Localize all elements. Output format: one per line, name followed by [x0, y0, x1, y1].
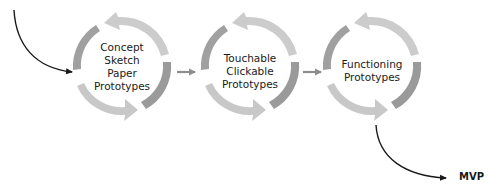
- stage-1-line-3: Paper: [77, 67, 167, 80]
- diagram-canvas: [0, 0, 490, 193]
- stage-label-1: Concept Sketch Paper Prototypes: [77, 41, 167, 93]
- stage-label-3: Functioning Prototypes: [327, 58, 417, 84]
- stage-3-line-2: Prototypes: [327, 71, 417, 84]
- stage-2-line-3: Prototypes: [205, 78, 295, 91]
- cycle-arrow-light-top: [232, 12, 297, 56]
- entry-flow-arrow: [14, 10, 72, 72]
- exit-flow-arrow: [376, 125, 446, 178]
- stage-3-line-1: Functioning: [327, 58, 417, 71]
- stage-1-line-1: Concept: [77, 41, 167, 54]
- stage-2-line-2: Clickable: [205, 65, 295, 78]
- stage-1-line-2: Sketch: [77, 54, 167, 67]
- cycle-arrow-light-top: [354, 12, 419, 56]
- stage-2-line-1: Touchable: [205, 52, 295, 65]
- cycle-arrow-light-bottom: [327, 83, 388, 121]
- output-label-mvp: MVP: [459, 171, 484, 182]
- stage-1-line-4: Prototypes: [77, 80, 167, 93]
- stage-label-2: Touchable Clickable Prototypes: [205, 52, 295, 91]
